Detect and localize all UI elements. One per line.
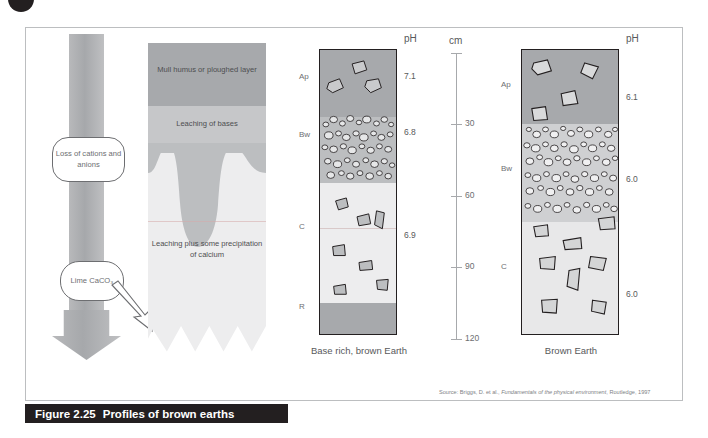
profile-1-label-Bw: Bw — [299, 130, 310, 139]
ph-header-1: pH — [404, 33, 417, 44]
profile-brown-earth: pH — [496, 34, 656, 384]
profile-1-label-C: C — [299, 222, 305, 231]
figure-caption-bar: Figure 2.25 Profiles of brown earths — [25, 404, 288, 423]
scale-value-90: 90 — [465, 261, 474, 271]
corner-bullet-dot — [8, 0, 34, 12]
scale-tick-30 — [451, 124, 462, 125]
process-arrow-panel: Loss of cations and anions Lime CaCO₃ — [46, 34, 141, 364]
callout-loss-label: Loss of cations and anions — [53, 149, 124, 170]
depth-scale: cm 30 60 90 120 — [444, 39, 494, 349]
scale-value-60: 60 — [465, 190, 474, 200]
profile-1-ph-C: 6.9 — [404, 230, 416, 240]
scale-value-30: 30 — [465, 118, 474, 128]
callout-loss-of-cations: Loss of cations and anions — [52, 137, 125, 182]
figure-caption-text: Profiles of brown earths — [103, 408, 235, 420]
profile-2-stones — [522, 50, 618, 334]
profile-2-title: Brown Earth — [506, 344, 636, 358]
scale-tick-120 — [451, 339, 462, 340]
profile-2-label-C: C — [501, 262, 507, 271]
ph-header-2: pH — [626, 33, 639, 44]
profile-1-title: Base rich, brown Earth — [294, 344, 424, 358]
profile-base-rich-brown-earth: pH — [294, 34, 444, 384]
profile-1-ph-Ap: 7.1 — [404, 71, 416, 81]
label-mull-humus: Mull humus or ploughed layer — [148, 65, 266, 76]
profile-2-ph-C: 6.0 — [626, 289, 638, 299]
profile-1-ph-Bw: 6.8 — [404, 127, 416, 137]
profile-2-ph-Ap: 6.1 — [626, 92, 638, 102]
scale-tick-90 — [451, 267, 462, 268]
scale-unit-label: cm — [449, 35, 462, 46]
source-prefix: Source: Briggs, D. et al., — [439, 389, 501, 395]
profile-2-column — [521, 49, 619, 335]
label-leaching-of-bases: Leaching of bases — [148, 119, 266, 130]
source-title: Fundamentals of the physical environment — [501, 389, 606, 395]
callout-lime-label: Lime CaCO₃ — [71, 276, 114, 286]
figure-frame: Loss of cations and anions Lime CaCO₃ Mu… — [25, 27, 683, 401]
figure-number: Figure 2.25 — [35, 408, 96, 420]
scale-value-120: 120 — [465, 333, 479, 343]
scale-tick-60 — [451, 196, 462, 197]
profile-1-label-Ap: Ap — [299, 72, 309, 81]
profile-2-label-Bw: Bw — [501, 164, 512, 173]
leaching-boundary-line — [148, 221, 266, 222]
source-suffix: , Routledge, 1997 — [606, 389, 650, 395]
leaching-diagram-panel: Mull humus or ploughed layer Leaching of… — [148, 43, 266, 361]
profile-2-ph-Bw: 6.0 — [626, 174, 638, 184]
leaching-block — [148, 43, 266, 361]
source-citation: Source: Briggs, D. et al., Fundamentals … — [439, 389, 650, 395]
scale-tick-0 — [451, 53, 462, 54]
label-leaching-plus-precipitation: Leaching plus some precipitation of calc… — [148, 239, 266, 260]
profile-2-label-Ap: Ap — [501, 80, 511, 89]
profile-1-label-R: R — [299, 302, 305, 311]
profile-1-column — [319, 49, 397, 335]
profile-1-stones — [320, 50, 396, 334]
